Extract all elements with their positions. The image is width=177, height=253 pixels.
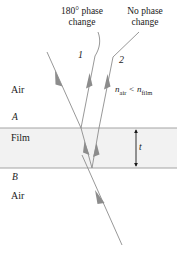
- diagram-canvas: [0, 0, 177, 253]
- medium-label-air-top: Air: [11, 85, 24, 96]
- inequality-operator: <: [129, 84, 135, 94]
- reflected-ray-1: [81, 56, 95, 128]
- n-subscript-air: air: [120, 89, 127, 96]
- reflected-ray-2: [99, 57, 113, 128]
- callout-no-phase-change: No phase change: [117, 6, 173, 28]
- thin-film-interference-figure: 180° phase change No phase change 1 2 Ai…: [0, 0, 177, 253]
- transmitted-ray-arrowhead: [95, 190, 105, 204]
- n-subscript-film: film: [141, 89, 152, 96]
- medium-label-air-bottom: Air: [11, 191, 24, 202]
- callout-left-line1: 180° phase: [61, 6, 103, 16]
- incident-ray: [47, 52, 81, 128]
- callout-left-line2: change: [69, 17, 96, 27]
- callout-180-phase-change: 180° phase change: [52, 6, 112, 28]
- medium-label-film: Film: [11, 133, 30, 144]
- thickness-label-t: t: [139, 142, 142, 152]
- ray-label-1: 1: [78, 50, 83, 61]
- right-callout-leader: [113, 32, 139, 57]
- callout-right-line2: change: [132, 17, 159, 27]
- interface-label-a: A: [12, 112, 18, 122]
- callout-right-line1: No phase: [127, 6, 163, 16]
- interface-label-b: B: [12, 172, 18, 182]
- ray-label-2: 2: [119, 55, 124, 66]
- index-relation: nair < nfilm: [115, 85, 152, 96]
- left-callout-leader: [95, 32, 100, 56]
